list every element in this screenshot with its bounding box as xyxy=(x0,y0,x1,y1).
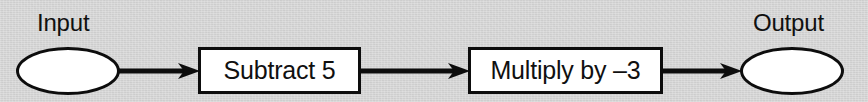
arrow-input-to-subtract xyxy=(118,62,200,80)
input-label: Input xyxy=(37,11,89,35)
arrow-right-icon xyxy=(118,62,200,80)
process-box-multiply: Multiply by –3 xyxy=(468,47,663,94)
flowchart-diagram: Input Subtract 5 Multiply by –3 Output xyxy=(0,0,868,102)
process-box-subtract-label: Subtract 5 xyxy=(224,58,336,83)
output-node-ellipse xyxy=(740,47,844,95)
process-box-subtract: Subtract 5 xyxy=(198,47,361,94)
process-box-multiply-label: Multiply by –3 xyxy=(490,58,640,83)
arrow-right-icon xyxy=(360,62,470,80)
arrow-multiply-to-output xyxy=(662,62,742,80)
arrow-right-icon xyxy=(662,62,742,80)
input-node-ellipse xyxy=(16,47,120,95)
paper-texture xyxy=(0,0,868,102)
output-label: Output xyxy=(753,11,824,35)
arrow-subtract-to-multiply xyxy=(360,62,470,80)
